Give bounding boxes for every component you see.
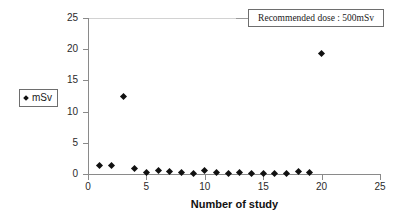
data-point: [295, 168, 302, 175]
y-tick-label: 10: [52, 107, 78, 117]
y-tick-label: 5: [52, 138, 78, 148]
data-point: [201, 167, 208, 174]
legend-item-label: mSv: [32, 92, 52, 103]
recommended-dose-text: Recommended dose : 500mSv: [258, 13, 374, 24]
data-point: [155, 167, 162, 174]
x-tick-mark: [88, 175, 89, 180]
y-tick-label: 25: [52, 13, 78, 23]
y-tick-label: 20: [52, 44, 78, 54]
data-point: [260, 170, 267, 177]
x-tick-label: 20: [310, 182, 334, 192]
data-point: [283, 170, 290, 177]
data-point: [96, 162, 103, 169]
x-tick-mark: [380, 175, 381, 180]
data-point: [225, 170, 232, 177]
x-tick-label: 5: [134, 182, 158, 192]
scatter-chart: 0510152025 0510152025 Number of study mS…: [0, 0, 405, 220]
plot-area: [88, 18, 380, 174]
x-tick-label: 10: [193, 182, 217, 192]
x-tick-label: 25: [368, 182, 392, 192]
x-axis-title: Number of study: [88, 198, 381, 211]
data-point: [318, 50, 325, 57]
diamond-marker-icon: [23, 95, 29, 101]
x-tick-mark: [205, 175, 206, 180]
data-point: [306, 169, 313, 176]
y-tick-label: 15: [52, 75, 78, 85]
x-tick-mark: [322, 175, 323, 180]
x-tick-label: 0: [76, 182, 100, 192]
data-point: [271, 170, 278, 177]
data-point: [190, 170, 197, 177]
data-point: [108, 162, 115, 169]
data-point: [236, 169, 243, 176]
data-point: [166, 168, 173, 175]
recommended-dose-callout: Recommended dose : 500mSv: [248, 9, 384, 27]
y-tick-label: 0: [52, 169, 78, 179]
data-point: [131, 165, 138, 172]
data-point: [119, 93, 126, 100]
x-axis-line: [88, 174, 381, 175]
x-tick-label: 15: [251, 182, 275, 192]
legend: mSv: [19, 89, 58, 107]
data-point: [248, 170, 255, 177]
